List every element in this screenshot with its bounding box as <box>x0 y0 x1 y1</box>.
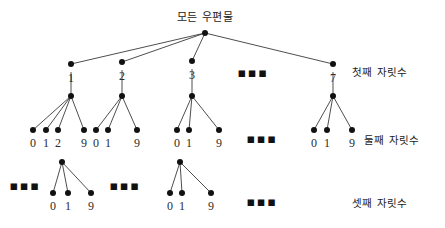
level3-node-0-1 <box>65 190 71 196</box>
level2-parent-node-1 <box>119 93 125 99</box>
level2-node-label-0-9: 9 <box>81 137 87 149</box>
level2-node-2-0 <box>174 127 180 133</box>
edge-level2-0-1 <box>46 96 71 130</box>
edge-level3-0-9 <box>62 162 91 193</box>
level2-node-0-0 <box>30 127 36 133</box>
level1-node-label-7: 7 <box>330 72 336 84</box>
root-node-label: 모든 우편물 <box>177 12 234 24</box>
edge-level2-3-0 <box>314 96 333 130</box>
edge-level2-1-1 <box>108 96 122 130</box>
root-node <box>202 30 208 36</box>
level2-node-label-3-1: 1 <box>324 137 330 149</box>
edge-level2-1-9 <box>122 96 137 130</box>
edge-level2-2-1 <box>189 96 192 130</box>
level1-node-7 <box>330 61 336 67</box>
level1-node-3 <box>189 58 195 64</box>
level2-parent-node-2 <box>189 93 195 99</box>
level3-ellipsis-2: ▪▪▪ <box>247 195 278 208</box>
level2-node-0-9 <box>81 127 87 133</box>
level1-ellipsis-0: ▪▪▪ <box>238 66 269 79</box>
level3-ellipsis-1: ▪▪▪ <box>110 179 141 192</box>
level-label-first-digit: 첫째 자릿수 <box>352 66 408 78</box>
level3-node-1-0 <box>167 190 173 196</box>
edge-level3-1-9 <box>180 162 211 193</box>
level2-node-1-9 <box>134 127 140 133</box>
level-label-third-digit: 셋째 자릿수 <box>352 197 408 209</box>
edge-root-to-level1-3 <box>192 33 205 61</box>
level2-node-1-0 <box>93 127 99 133</box>
level2-node-0-1 <box>43 127 49 133</box>
edge-root-to-level1-7 <box>205 33 333 64</box>
level2-node-2-9 <box>216 127 222 133</box>
level2-node-label-2-1: 1 <box>186 137 192 149</box>
level2-node-3-9 <box>349 127 355 133</box>
level3-node-label-1-9: 9 <box>208 200 214 212</box>
level3-parent-node-0 <box>59 159 65 165</box>
level2-node-1-1 <box>105 127 111 133</box>
level1-node-1 <box>68 61 74 67</box>
level2-parent-node-3 <box>330 93 336 99</box>
edge-level2-2-9 <box>192 96 219 130</box>
level2-node-label-2-0: 0 <box>174 137 180 149</box>
level3-node-label-0-1: 1 <box>65 200 71 212</box>
edge-level3-1-0 <box>170 162 180 193</box>
edge-level2-0-9 <box>71 96 84 130</box>
level2-node-label-0-2: 2 <box>55 137 61 149</box>
level3-node-label-0-9: 9 <box>88 200 94 212</box>
edge-level3-0-1 <box>62 162 68 193</box>
level3-parent-node-1 <box>177 159 183 165</box>
edge-root-to-level1-1 <box>71 33 205 64</box>
level2-node-label-0-0: 0 <box>30 137 36 149</box>
level3-node-label-1-1: 1 <box>179 200 185 212</box>
level2-node-label-2-9: 9 <box>216 137 222 149</box>
tree-diagram: 1237▪▪▪0129019019019▪▪▪019019▪▪▪▪▪▪▪▪▪ 모… <box>0 0 445 228</box>
edge-level2-2-0 <box>177 96 192 130</box>
edge-level2-3-1 <box>327 96 333 130</box>
edge-level3-0-0 <box>53 162 62 193</box>
level2-ellipsis-0: ▪▪▪ <box>247 132 278 145</box>
level3-node-label-1-0: 0 <box>167 200 173 212</box>
edge-level2-0-2 <box>58 96 71 130</box>
level2-node-label-0-1: 1 <box>43 137 49 149</box>
edge-level2-0-0 <box>33 96 71 130</box>
level2-node-2-1 <box>186 127 192 133</box>
level2-node-label-3-9: 9 <box>349 137 355 149</box>
level3-node-label-0-0: 0 <box>50 200 56 212</box>
level2-node-0-2 <box>55 127 61 133</box>
edge-group <box>33 33 352 193</box>
level2-node-label-1-0: 0 <box>93 137 99 149</box>
level3-node-1-9 <box>208 190 214 196</box>
level2-node-label-1-1: 1 <box>105 137 111 149</box>
level1-node-2 <box>119 59 125 65</box>
level2-parent-node-0 <box>68 93 74 99</box>
level-label-second-digit: 둘째 자릿수 <box>364 134 420 146</box>
level2-node-label-3-0: 0 <box>311 137 317 149</box>
level1-node-label-3: 3 <box>189 69 195 81</box>
level2-node-3-1 <box>324 127 330 133</box>
edge-level2-3-9 <box>333 96 352 130</box>
edge-level3-1-1 <box>180 162 182 193</box>
level2-node-3-0 <box>311 127 317 133</box>
level3-node-1-1 <box>179 190 185 196</box>
edge-level2-1-0 <box>96 96 122 130</box>
level3-node-0-0 <box>50 190 56 196</box>
level1-node-label-2: 2 <box>119 70 125 82</box>
level1-node-label-1: 1 <box>68 72 74 84</box>
level2-node-label-1-9: 9 <box>134 137 140 149</box>
level3-ellipsis-0: ▪▪▪ <box>10 179 41 192</box>
level3-node-0-9 <box>88 190 94 196</box>
